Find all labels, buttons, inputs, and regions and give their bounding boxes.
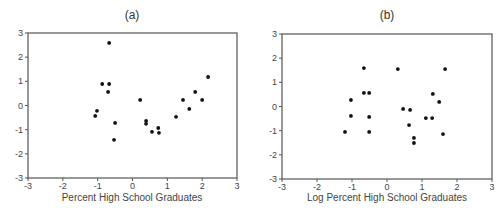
x-tick-label: 3: [489, 182, 494, 192]
data-point: [431, 92, 435, 96]
x-tick-label: 2: [454, 182, 459, 192]
x-tick-label: 0: [384, 182, 389, 192]
data-point: [362, 91, 366, 95]
data-point: [424, 116, 428, 120]
panel-b: (b) -3-2-101233210-1-2-3 Log Percent Hig…: [0, 0, 504, 214]
data-point: [407, 123, 411, 127]
data-point: [412, 136, 416, 140]
scatter-plot-b: -3-2-101233210-1-2-3: [0, 0, 504, 214]
data-point: [367, 115, 371, 119]
data-point: [343, 130, 347, 134]
x-tick-label: -2: [313, 182, 321, 192]
x-tick-label: 1: [419, 182, 424, 192]
data-point: [430, 116, 434, 120]
data-point: [443, 67, 447, 71]
data-point: [396, 67, 400, 71]
y-tick-label: 3: [272, 29, 277, 39]
data-point: [367, 91, 371, 95]
data-point: [349, 114, 353, 118]
y-tick-label: 1: [272, 77, 277, 87]
data-point: [412, 141, 416, 145]
data-point: [367, 130, 371, 134]
data-point: [401, 107, 405, 111]
y-tick-label: 2: [272, 53, 277, 63]
data-point: [437, 100, 441, 104]
x-tick-label: -3: [278, 182, 286, 192]
data-point: [362, 66, 366, 70]
panel-b-x-axis-label: Log Percent High School Graduates: [277, 192, 497, 203]
y-tick-label: 0: [272, 102, 277, 112]
plot-frame: [282, 34, 492, 179]
y-tick-label: -1: [269, 126, 277, 136]
y-tick-label: -2: [269, 150, 277, 160]
data-point: [349, 98, 353, 102]
y-tick-label: -3: [269, 174, 277, 184]
data-point: [441, 132, 445, 136]
data-point: [408, 108, 412, 112]
x-tick-label: -1: [348, 182, 356, 192]
